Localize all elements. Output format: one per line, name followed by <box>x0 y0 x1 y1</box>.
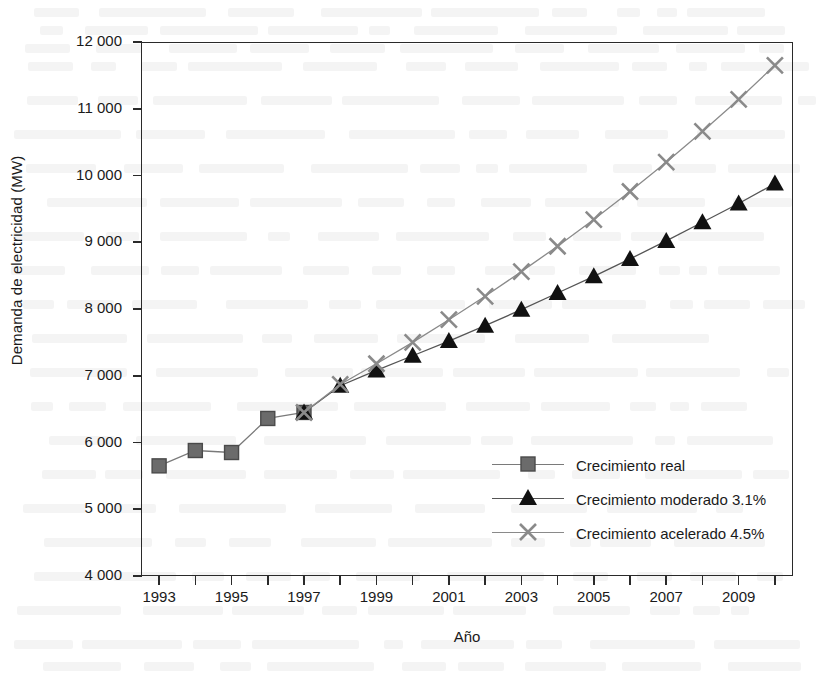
data-point-triangle <box>693 213 711 229</box>
data-point-triangle <box>440 332 458 348</box>
x-axis-tick-label: 2009 <box>704 588 774 605</box>
series-group <box>295 175 784 420</box>
x-axis-tick <box>484 576 486 585</box>
x-axis-tick-label: 2005 <box>559 588 629 605</box>
data-point-x <box>586 212 602 228</box>
legend-swatch-square-icon <box>492 452 564 478</box>
x-axis-tick <box>521 576 523 585</box>
x-axis-tick <box>412 576 414 585</box>
data-point-triangle <box>549 284 567 300</box>
legend-item: Crecimiento acelerado 4.5% <box>492 516 766 550</box>
x-axis-tick-label: 1995 <box>197 588 267 605</box>
x-axis-tick <box>267 576 269 585</box>
x-axis-tick-label: 2003 <box>486 588 556 605</box>
x-axis-tick-label: 1993 <box>124 588 194 605</box>
data-point-triangle <box>512 301 530 317</box>
x-axis-tick <box>231 576 233 585</box>
data-point-x <box>767 57 783 73</box>
data-point-triangle <box>657 232 675 248</box>
x-axis-tick <box>303 576 305 585</box>
x-axis-tick <box>774 576 776 585</box>
x-axis-tick <box>448 576 450 585</box>
legend-item: Crecimiento moderado 3.1% <box>492 482 766 516</box>
x-axis-tick <box>629 576 631 585</box>
series-group <box>296 57 783 420</box>
data-point-square <box>225 446 239 460</box>
x-axis-tick <box>339 576 341 585</box>
x-axis-tick-label: 2001 <box>414 588 484 605</box>
data-point-triangle <box>766 175 784 191</box>
data-point-square <box>521 457 535 471</box>
data-point-triangle <box>585 267 603 283</box>
series-layer <box>0 0 834 681</box>
data-point-x <box>622 184 638 200</box>
x-axis-tick-label: 2007 <box>631 588 701 605</box>
data-point-square <box>152 459 166 473</box>
data-point-x <box>731 91 747 107</box>
data-point-x <box>550 238 566 254</box>
x-axis-tick <box>195 576 197 585</box>
legend-swatch-x-icon <box>492 520 564 546</box>
data-point-x <box>513 264 529 280</box>
x-axis-tick <box>158 576 160 585</box>
data-point-triangle <box>476 317 494 333</box>
data-point-triangle <box>519 489 537 505</box>
x-axis-tick <box>376 576 378 585</box>
chart-figure: Demanda de electricidad (MW) 4 0005 0006… <box>0 0 834 681</box>
x-axis-tick <box>557 576 559 585</box>
x-axis-title: Año <box>141 628 793 645</box>
data-point-x <box>477 288 493 304</box>
data-point-x <box>520 524 536 540</box>
x-axis-tick-label: 1999 <box>341 588 411 605</box>
x-axis-tick <box>702 576 704 585</box>
x-axis-tick-label: 1997 <box>269 588 339 605</box>
series-group <box>152 405 311 472</box>
data-point-triangle <box>730 195 748 211</box>
legend-label: Crecimiento acelerado 4.5% <box>576 525 764 542</box>
legend-label: Crecimiento real <box>576 457 685 474</box>
legend-swatch-triangle-icon <box>492 486 564 512</box>
legend-label: Crecimiento moderado 3.1% <box>576 491 766 508</box>
legend-item: Crecimiento real <box>492 448 766 482</box>
data-point-square <box>261 411 275 425</box>
data-point-x <box>658 154 674 170</box>
x-axis-tick <box>593 576 595 585</box>
x-axis-tick <box>665 576 667 585</box>
data-point-x <box>441 312 457 328</box>
data-point-x <box>694 123 710 139</box>
x-axis-tick <box>738 576 740 585</box>
chart-legend: Crecimiento realCrecimiento moderado 3.1… <box>492 448 766 550</box>
data-point-square <box>188 444 202 458</box>
data-point-triangle <box>621 250 639 266</box>
